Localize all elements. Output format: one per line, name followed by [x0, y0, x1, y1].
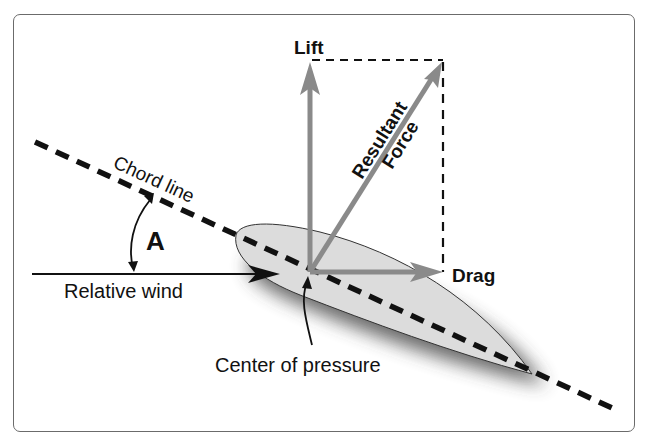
lift-label: Lift	[294, 37, 324, 58]
chord-line-label: Chord line	[110, 152, 197, 207]
drag-label: Drag	[452, 265, 495, 286]
airfoil-diagram: Lift Drag Resultant Force Chord line A R…	[0, 0, 648, 444]
angle-label: A	[146, 226, 165, 256]
airfoil	[236, 224, 532, 374]
relative-wind-label: Relative wind	[64, 280, 183, 302]
center-of-pressure-label: Center of pressure	[215, 354, 381, 376]
center-of-pressure-pointer	[302, 276, 312, 345]
resultant-force-arrow	[310, 62, 442, 272]
